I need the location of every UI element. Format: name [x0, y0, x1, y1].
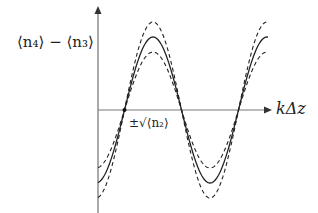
y-axis-label: ⟨n₄⟩ − ⟨n₃⟩: [17, 33, 94, 51]
y-axis-arrow-icon: [95, 6, 102, 14]
x-axis-arrow-icon: [264, 107, 272, 114]
zero-crossing-dot: [123, 108, 127, 112]
error-band-label: ±√⟨n₂⟩: [129, 116, 169, 130]
x-axis-label: kΔz: [276, 99, 306, 118]
sine-diagram: [0, 0, 318, 213]
